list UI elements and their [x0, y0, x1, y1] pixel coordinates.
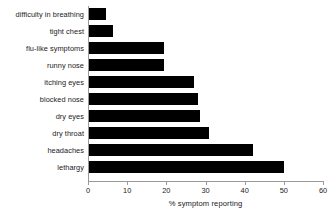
category-label: difficulty in breathing — [16, 6, 84, 23]
x-axis-tick — [245, 181, 246, 185]
bar — [88, 25, 113, 37]
category-label: lethargy — [57, 159, 84, 176]
category-label: runny nose — [47, 57, 84, 74]
bar — [88, 59, 164, 71]
bar — [88, 76, 194, 88]
bar-row: difficulty in breathing — [0, 6, 331, 23]
x-axis-tick — [88, 181, 89, 185]
category-label: itching eyes — [44, 74, 84, 91]
category-label: flu-like symptoms — [26, 40, 84, 57]
x-axis-tick-label: 60 — [308, 186, 331, 196]
bar — [88, 127, 209, 139]
x-axis-tick-label: 40 — [230, 186, 260, 196]
x-axis-tick — [127, 181, 128, 185]
bar-row: blocked nose — [0, 91, 331, 108]
x-axis-tick-label: 30 — [191, 186, 221, 196]
x-axis-title: % symptom reporting — [88, 198, 323, 209]
category-label: headaches — [47, 142, 84, 159]
x-axis-tick — [206, 181, 207, 185]
bar-row: dry eyes — [0, 108, 331, 125]
category-label: dry eyes — [56, 108, 84, 125]
bar-row: dry throat — [0, 125, 331, 142]
bar-row: headaches — [0, 142, 331, 159]
bar — [88, 8, 106, 20]
plot-area: difficulty in breathing tight chest flu-… — [0, 0, 331, 216]
x-axis-tick — [166, 181, 167, 185]
bar-chart-figure: difficulty in breathing tight chest flu-… — [0, 0, 331, 216]
x-axis-tick — [323, 181, 324, 185]
bar-row: runny nose — [0, 57, 331, 74]
x-axis-tick-label: 0 — [73, 186, 103, 196]
category-label: dry throat — [52, 125, 84, 142]
category-label: blocked nose — [40, 91, 84, 108]
bar-row: tight chest — [0, 23, 331, 40]
category-label: tight chest — [50, 23, 84, 40]
bar — [88, 144, 253, 156]
bar-row: lethargy — [0, 159, 331, 176]
x-axis-tick-label: 50 — [269, 186, 299, 196]
y-axis-line — [88, 6, 89, 182]
x-axis-tick-label: 10 — [112, 186, 142, 196]
x-axis-tick — [284, 181, 285, 185]
bar-row: flu-like symptoms — [0, 40, 331, 57]
x-axis-tick-label: 20 — [151, 186, 181, 196]
bar — [88, 161, 284, 173]
bar — [88, 42, 164, 54]
bar — [88, 110, 200, 122]
bar-row: itching eyes — [0, 74, 331, 91]
bar — [88, 93, 198, 105]
